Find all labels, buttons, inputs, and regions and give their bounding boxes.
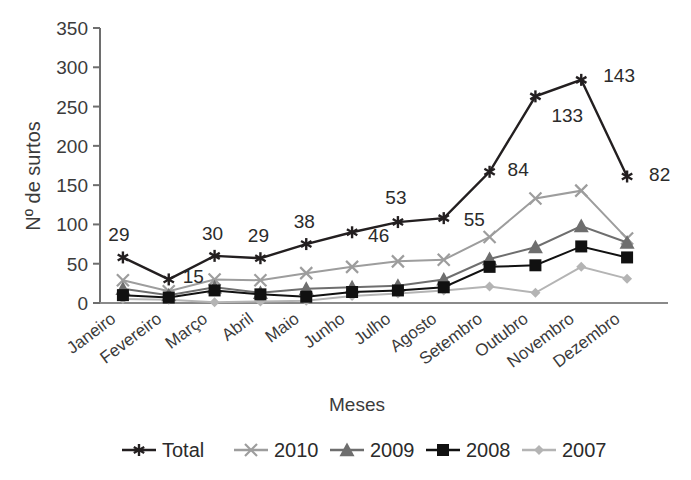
data-label-dezembro: 82 [649, 164, 670, 185]
data-label-janeiro: 29 [108, 224, 129, 245]
y-axis-tick-label: 350 [56, 18, 88, 39]
x-axis-title: Meses [329, 394, 385, 415]
marker-square [438, 281, 450, 293]
legend-label: 2007 [562, 439, 607, 461]
data-label-maio: 38 [294, 211, 315, 232]
marker-square [117, 289, 129, 301]
square-shape [209, 284, 221, 296]
data-label-junho: 46 [368, 225, 389, 246]
marker-square [209, 284, 221, 296]
square-shape [575, 240, 587, 252]
data-label-outubro: 133 [551, 105, 583, 126]
legend-label: 2008 [466, 439, 511, 461]
data-label-março: 30 [202, 223, 223, 244]
line-chart: 050100150200250300350 JaneiroFevereiroMa… [0, 0, 691, 480]
legend-label: 2009 [370, 439, 415, 461]
y-axis-title: Nº de surtos [22, 121, 44, 231]
chart-container: 050100150200250300350 JaneiroFevereiroMa… [0, 0, 691, 480]
data-label-agosto: 55 [464, 209, 485, 230]
square-shape [484, 261, 496, 273]
legend-label: Total [162, 439, 204, 461]
y-axis-tick-label: 50 [67, 254, 88, 275]
square-shape [117, 289, 129, 301]
square-shape [254, 288, 266, 300]
marker-square [621, 251, 633, 263]
square-shape [163, 292, 175, 304]
data-label-novembro: 143 [603, 65, 635, 86]
square-shape [529, 259, 541, 271]
y-axis-tick-label: 150 [56, 175, 88, 196]
y-axis-tick-label: 0 [77, 293, 88, 314]
y-axis-tick-label: 300 [56, 57, 88, 78]
marker-square [484, 261, 496, 273]
y-axis-tick-label: 250 [56, 97, 88, 118]
marker-square [437, 444, 449, 456]
square-shape [438, 281, 450, 293]
y-axis-tick-label: 200 [56, 136, 88, 157]
marker-square [575, 240, 587, 252]
marker-square [163, 292, 175, 304]
marker-square [529, 259, 541, 271]
square-shape [392, 284, 404, 296]
marker-square [346, 286, 358, 298]
data-label-julho: 53 [385, 187, 406, 208]
legend-label: 2010 [274, 439, 319, 461]
square-shape [621, 251, 633, 263]
y-axis-tick-label: 100 [56, 214, 88, 235]
square-shape [300, 291, 312, 303]
data-label-abril: 29 [248, 225, 269, 246]
square-shape [346, 286, 358, 298]
square-shape [437, 444, 449, 456]
marker-square [392, 284, 404, 296]
data-label-fevereiro: 15 [183, 266, 204, 287]
data-label-setembro: 84 [508, 159, 530, 180]
marker-square [254, 288, 266, 300]
marker-square [300, 291, 312, 303]
